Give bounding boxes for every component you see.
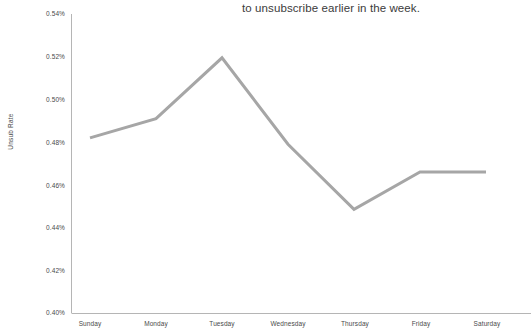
x-tick-label-thursday: Thursday (320, 320, 390, 328)
x-axis-tick-labels: Sunday Monday Tuesday Wednesday Thursday… (0, 0, 531, 334)
x-tick-label-sunday: Sunday (55, 320, 125, 328)
x-tick-label-wednesday: Wednesday (253, 320, 323, 328)
unsub-rate-line-chart: Unsub Rate 0.54% 0.52% 0.50% 0.48% 0.46%… (0, 0, 531, 334)
x-tick-label-monday: Monday (121, 320, 191, 328)
x-tick-label-saturday: Saturday (452, 320, 522, 328)
x-tick-label-tuesday: Tuesday (187, 320, 257, 328)
chart-page: to unsubscribe earlier in the week. Unsu… (0, 0, 531, 334)
x-tick-label-friday: Friday (386, 320, 456, 328)
